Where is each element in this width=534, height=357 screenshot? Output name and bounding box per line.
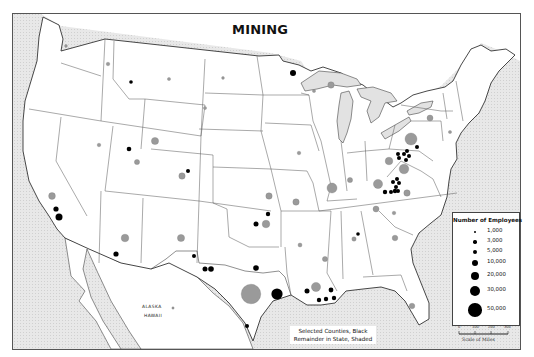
state-remainder-dot (65, 45, 68, 48)
legend-dot-icon (472, 260, 478, 266)
legend-dot-icon (473, 240, 476, 243)
scale-tick-0: 0 (458, 325, 460, 329)
county-dot (56, 214, 63, 221)
county-dot (405, 149, 409, 153)
state-remainder-dot (167, 77, 170, 80)
legend-label: 3,000 (487, 237, 502, 243)
legend-dot-icon (468, 303, 482, 317)
state-remainder-dot (404, 190, 410, 196)
county-dot (404, 158, 408, 162)
state-remainder-dot (373, 206, 379, 212)
county-dot (53, 206, 58, 211)
legend-row: 20,000 (453, 271, 519, 281)
state-remainder-dot (203, 106, 206, 109)
legend-row: 50,000 (453, 305, 519, 315)
legend-title: Number of Employees (453, 217, 519, 223)
state-remainder-dot (405, 133, 417, 145)
county-dot (203, 267, 208, 272)
state-remainder-dot (297, 151, 301, 155)
state-remainder-dot (266, 193, 272, 199)
hawaii-label: HAWAII (144, 313, 162, 318)
state-remainder-dot (322, 256, 327, 261)
county-dot (391, 180, 395, 184)
state-remainder-dot (106, 62, 110, 66)
legend-dot-icon (474, 231, 476, 233)
county-dot (356, 232, 360, 236)
state-remainder-dot (134, 159, 139, 164)
legend-dot-icon (471, 272, 479, 280)
county-dot (266, 212, 270, 216)
state-remainder-dot (222, 77, 225, 80)
legend-row: 10,000 (453, 258, 519, 268)
state-remainder-dot (97, 143, 101, 147)
scale-line (458, 330, 512, 336)
state-remainder-dot (347, 177, 352, 182)
county-dot (332, 296, 336, 300)
county-dot (113, 251, 118, 256)
legend-label: 30,000 (487, 286, 506, 292)
state-remainder-dot (392, 211, 396, 215)
county-dot (395, 177, 399, 181)
county-dot (402, 152, 406, 156)
county-dot (415, 145, 419, 149)
county-dot (253, 265, 259, 271)
alaska-label: ALASKA (142, 304, 162, 309)
legend: Number of Employees 1,0003,0005,00010,00… (452, 212, 520, 326)
county-dot (127, 147, 132, 152)
state-remainder-dot (328, 82, 334, 88)
state-remainder-dot (399, 164, 409, 174)
legend-row: 5,000 (453, 247, 519, 257)
state-remainder-dot (392, 235, 398, 241)
state-remainder-dot (241, 284, 261, 304)
state-remainder-dot (179, 173, 185, 179)
caption-line-1: Selected Counties, Black (290, 327, 376, 335)
state-remainder-dot (373, 179, 382, 188)
county-dot (208, 266, 214, 272)
state-remainder-dot (409, 303, 415, 309)
legend-label: 20,000 (487, 271, 506, 277)
county-dot (389, 190, 393, 194)
county-dot (324, 297, 328, 301)
county-dot (290, 70, 296, 76)
county-dot (383, 190, 387, 194)
scale-caption: Scale of Miles (462, 337, 495, 342)
state-remainder-dot (121, 234, 129, 242)
county-dot (254, 222, 259, 227)
legend-label: 10,000 (487, 258, 506, 264)
state-remainder-dot (151, 137, 158, 144)
legend-row: 30,000 (453, 286, 519, 296)
state-remainder-dot (448, 130, 451, 133)
county-dot (271, 288, 282, 299)
state-remainder-dot (427, 115, 433, 121)
state-remainder-dot (172, 307, 174, 309)
county-dot (129, 80, 133, 84)
county-dot (394, 185, 398, 189)
map-caption: Selected Counties, Black Remainder in St… (290, 326, 376, 344)
legend-label: 1,000 (487, 227, 502, 233)
legend-dot-icon (470, 286, 480, 296)
legend-dot-icon (473, 250, 478, 255)
scale-bar: 0 100 200 300 Scale of Miles (458, 325, 516, 345)
caption-line-2: Remainder in State, Shaded (290, 335, 376, 343)
map-frame (12, 13, 521, 350)
scale-tick-200: 200 (488, 325, 495, 329)
state-remainder-dot (49, 193, 56, 200)
state-remainder-dot (385, 157, 393, 165)
county-dot (407, 154, 411, 158)
state-remainder-dot (311, 282, 320, 291)
county-dot (396, 189, 400, 193)
county-dot (317, 298, 321, 302)
state-remainder-dot (262, 220, 270, 228)
state-remainder-dot (177, 234, 184, 241)
scale-tick-300: 300 (504, 325, 511, 329)
state-remainder-dot (298, 243, 302, 247)
county-dot (396, 152, 400, 156)
legend-label: 5,000 (487, 247, 502, 253)
county-dot (397, 156, 401, 160)
county-dot (192, 254, 196, 258)
legend-row: 1,000 (453, 227, 519, 237)
county-dot (186, 169, 190, 173)
county-dot (305, 289, 310, 294)
legend-label: 50,000 (487, 305, 506, 311)
state-remainder-dot (352, 237, 356, 241)
